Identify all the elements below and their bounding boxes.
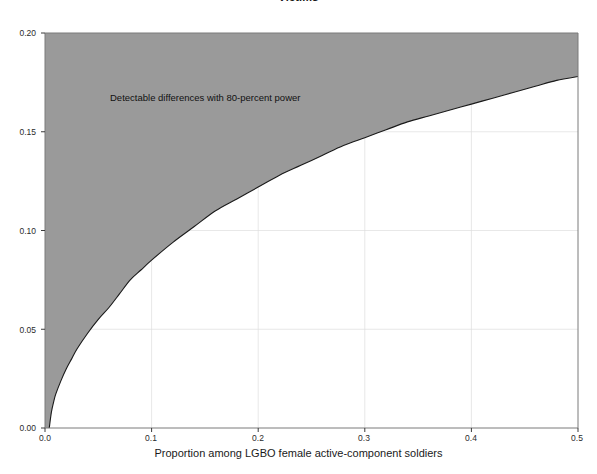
- y-tick-label-0.00: 0.00: [2, 423, 36, 433]
- chart-plot-area: [0, 0, 597, 474]
- x-tick-label-0.3: 0.3: [344, 433, 384, 443]
- x-tick-label-0.0: 0.0: [25, 433, 65, 443]
- y-tick-label-0.05: 0.05: [2, 325, 36, 335]
- chart-annotation-label: Detectable differences with 80-percent p…: [110, 92, 300, 103]
- x-tick-label-0.2: 0.2: [238, 433, 278, 443]
- x-tick-label-0.5: 0.5: [557, 433, 597, 443]
- y-tick-label-0.10: 0.10: [2, 226, 36, 236]
- x-tick-label-0.1: 0.1: [131, 433, 171, 443]
- y-tick-label-0.15: 0.15: [2, 127, 36, 137]
- y-tick-label-0.20: 0.20: [2, 28, 36, 38]
- figure-container: Victims 0.20 0.15 0.10 0.05 0.00 0.0 0.1…: [0, 0, 597, 474]
- x-axis-title: Proportion among LGBO female active-comp…: [0, 447, 597, 459]
- x-tick-label-0.4: 0.4: [451, 433, 491, 443]
